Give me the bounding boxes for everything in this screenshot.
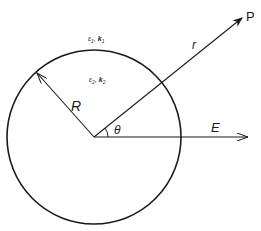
E-label: E (211, 120, 220, 135)
position-vector-arrow (94, 18, 242, 137)
point-label: P (246, 9, 255, 24)
radius-arrow (37, 73, 94, 137)
inner-medium-label: ε2,k2 (89, 76, 106, 85)
svg-text:ε1,k1: ε1,k1 (88, 35, 105, 44)
theta-label: θ (114, 123, 121, 137)
diagram-canvas: P r R θ E ε1,k1 ε2,k2 (0, 0, 261, 231)
svg-text:ε2,k2: ε2,k2 (89, 76, 106, 85)
outer-medium-label: ε1,k1 (88, 35, 105, 44)
R-label: R (71, 98, 81, 114)
r-label: r (192, 38, 197, 52)
angle-arc (105, 128, 108, 137)
